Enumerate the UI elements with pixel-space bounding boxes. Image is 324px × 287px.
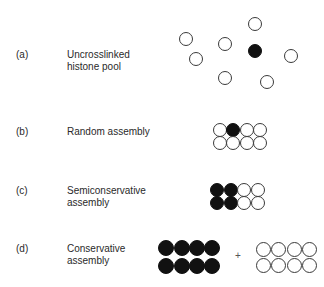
histone-open [271,242,286,257]
desc-c-line1: Semiconservative [67,185,146,197]
histone-filled [189,240,205,256]
histone-open [253,123,267,137]
histone-filled [226,123,240,137]
histone-filled [224,183,238,197]
histone-open [240,136,254,150]
histone-filled [204,240,220,256]
histone-open [256,242,271,257]
histone-open [226,136,240,150]
label-d: (d) [16,243,28,255]
desc-a-line2: histone pool [67,61,121,73]
desc-b-line1: Random assembly [67,126,150,138]
desc-d-line2: assembly [67,255,109,267]
desc-a-line1: Uncrosslinked [67,49,130,61]
histone-open [260,75,274,89]
histone-open [251,183,265,197]
label-a: (a) [16,49,28,61]
histone-filled [174,240,190,256]
histone-open [218,37,232,51]
histone-open [213,136,227,150]
histone-open [284,49,298,63]
histone-open [218,71,232,85]
histone-open [248,17,262,31]
desc-d-line1: Conservative [67,243,125,255]
label-b: (b) [16,126,28,138]
histone-filled [204,258,220,274]
histone-open [213,123,227,137]
histone-open [253,136,267,150]
histone-open [251,196,265,210]
histone-open [179,32,193,46]
desc-c-line2: assembly [67,197,109,209]
histone-filled [158,258,174,274]
histone-filled [158,240,174,256]
histone-filled [248,44,262,58]
histone-open [287,242,302,257]
histone-open [302,242,317,257]
histone-filled [174,258,190,274]
histone-filled [224,196,238,210]
histone-open [256,258,271,273]
histone-filled [210,183,224,197]
plus-sign: + [235,250,241,261]
histone-open [302,258,317,273]
histone-filled [189,258,205,274]
histone-open [271,258,286,273]
histone-filled [210,196,224,210]
histone-open [287,258,302,273]
histone-open [237,196,251,210]
label-c: (c) [16,185,28,197]
histone-open [189,52,203,66]
histone-open [240,123,254,137]
histone-open [237,183,251,197]
